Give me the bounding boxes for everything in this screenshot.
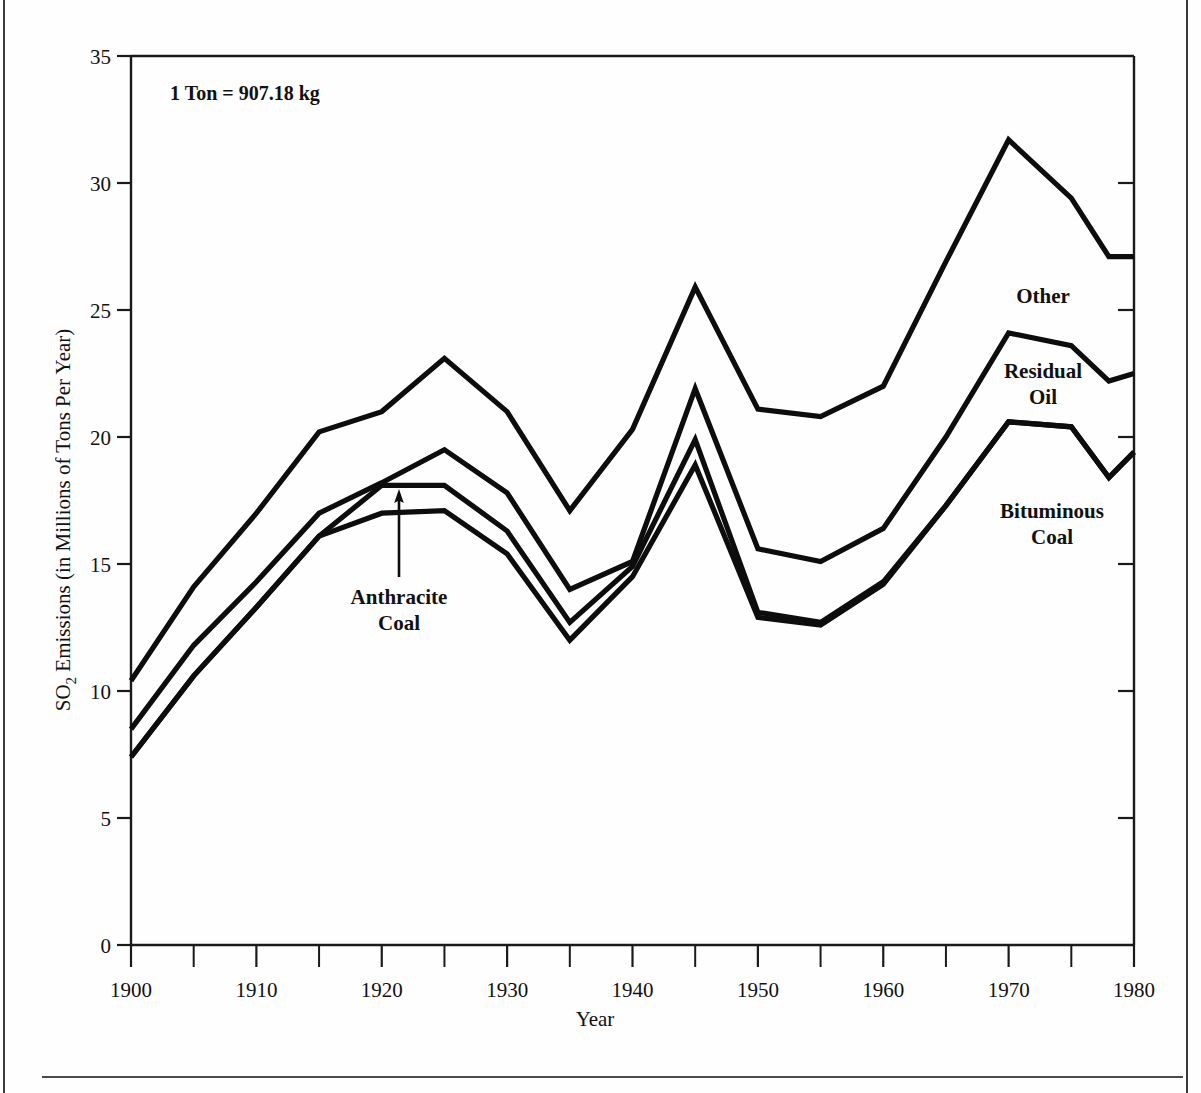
y-tick-label: 35 (90, 45, 111, 69)
series-line-1 (131, 333, 1134, 729)
x-tick-label: 1910 (235, 978, 277, 1002)
series-label-residual-oil-line1: Residual (1004, 359, 1082, 383)
series-label-anthracite-coal-line2: Coal (378, 611, 420, 635)
series-line-3 (131, 422, 1134, 757)
x-tick-label: 1930 (486, 978, 528, 1002)
svg-text:SO2 Emissions (in Millions of: SO2 Emissions (in Millions of Tons Per Y… (51, 329, 79, 712)
series-line-2 (131, 422, 1134, 757)
series-label-bituminous-coal-line2: Coal (1031, 525, 1073, 549)
y-tick-label: 0 (101, 934, 112, 958)
series-line-0 (131, 140, 1134, 681)
y-tick-label: 30 (90, 172, 111, 196)
x-tick-label: 1950 (737, 978, 779, 1002)
series-lines (131, 140, 1134, 757)
y-axis-title-pre: SO (51, 684, 75, 711)
y-tick-label: 20 (90, 426, 111, 450)
y-tick-label: 15 (90, 553, 111, 577)
so2-emissions-line-chart: 05101520253035 1900191019201930194019501… (0, 0, 1201, 1093)
y-axis-tick-labels: 05101520253035 (90, 45, 111, 958)
y-tick-label: 25 (90, 299, 111, 323)
x-tick-label: 1940 (612, 978, 654, 1002)
series-label-other: Other (1016, 284, 1070, 308)
y-axis-title-subscript: 2 (63, 677, 79, 685)
y-axis-title: SO2 Emissions (in Millions of Tons Per Y… (51, 329, 79, 712)
series-label-anthracite-coal-line1: Anthracite (351, 585, 448, 609)
x-tick-label: 1980 (1113, 978, 1155, 1002)
y-tick-label: 5 (101, 807, 112, 831)
x-tick-label: 1960 (862, 978, 904, 1002)
x-axis-tick-labels: 190019101920193019401950196019701980 (110, 978, 1155, 1002)
series-label-bituminous-coal-line1: Bituminous (1000, 499, 1104, 523)
x-tick-label: 1970 (988, 978, 1030, 1002)
figure-page: 05101520253035 1900191019201930194019501… (0, 0, 1201, 1093)
x-axis-ticks (131, 945, 1134, 967)
y-axis-title-post: Emissions (in Millions of Tons Per Year) (51, 329, 75, 677)
x-tick-label: 1900 (110, 978, 152, 1002)
unit-note: 1 Ton = 907.18 kg (170, 82, 320, 105)
y-tick-label: 10 (90, 680, 111, 704)
series-label-residual-oil-line2: Oil (1029, 385, 1057, 409)
x-tick-label: 1920 (361, 978, 403, 1002)
x-axis-title: Year (576, 1007, 615, 1031)
